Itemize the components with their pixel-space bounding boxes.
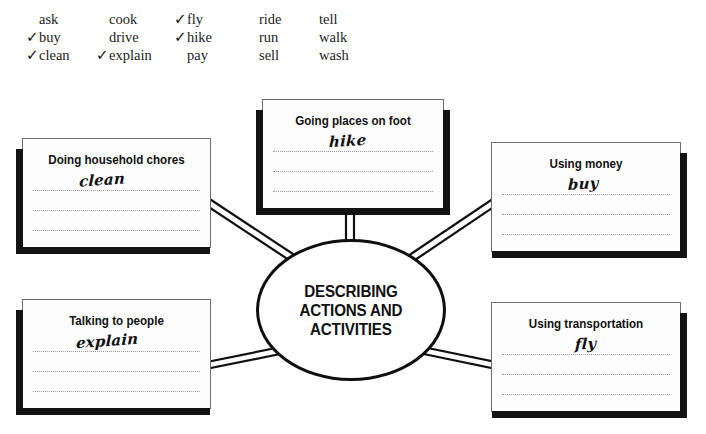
writing-line[interactable] [273, 191, 433, 192]
writing-line[interactable] [33, 230, 200, 231]
writing-line[interactable] [502, 354, 670, 355]
center-line-1: DESCRIBING [300, 282, 403, 301]
card-title: Going places on foot [269, 114, 436, 128]
card-top-right: Using money buy [491, 142, 681, 252]
writing-line[interactable] [33, 351, 200, 352]
writing-line[interactable] [502, 194, 670, 195]
center-line-3: ACTIVITIES [300, 320, 403, 339]
writing-lines [263, 151, 443, 192]
card-title: Talking to people [30, 314, 204, 328]
writing-lines [492, 194, 680, 235]
center-line-2: ACTIONS AND [300, 301, 403, 320]
card-shadow [256, 208, 450, 215]
writing-line[interactable] [33, 210, 200, 211]
card-shadow [16, 149, 23, 254]
card-top: Going places on foot hike [262, 99, 444, 209]
card-answer: fly [575, 334, 597, 354]
card-bottom-right: Using transportation fly [491, 302, 681, 412]
writing-lines [23, 351, 210, 392]
writing-lines [23, 190, 210, 231]
card-title: Doing household chores [30, 153, 204, 167]
card-top-left: Doing household chores clean [22, 138, 211, 248]
writing-line[interactable] [502, 234, 670, 235]
card-answer: buy [568, 174, 599, 194]
card-answer: clean [79, 169, 126, 190]
writing-lines [492, 354, 680, 395]
center-ellipse: DESCRIBING ACTIONS AND ACTIVITIES [256, 239, 446, 381]
card-shadow [492, 251, 687, 258]
writing-line[interactable] [33, 371, 200, 372]
card-shadow [492, 411, 687, 418]
card-shadow [16, 310, 23, 415]
writing-line[interactable] [273, 171, 433, 172]
card-title: Using money [499, 157, 674, 171]
card-shadow [680, 153, 687, 258]
writing-line[interactable] [33, 391, 200, 392]
card-bottom-left: Talking to people explain [22, 299, 211, 409]
center-ellipse-label: DESCRIBING ACTIONS AND ACTIVITIES [300, 282, 403, 339]
card-title: Using transportation [499, 317, 674, 331]
worksheet-canvas: ✓ ask ✓ buy ✓ clean ✓ cook ✓ drive ✓ [0, 0, 706, 434]
writing-line[interactable] [33, 190, 200, 191]
card-answer: explain [76, 330, 139, 352]
card-shadow [16, 247, 210, 254]
writing-line[interactable] [273, 151, 433, 152]
card-shadow [443, 110, 450, 215]
card-answer: hike [329, 131, 367, 152]
card-shadow [680, 313, 687, 418]
writing-line[interactable] [502, 214, 670, 215]
writing-line[interactable] [502, 394, 670, 395]
card-shadow [256, 110, 263, 215]
card-shadow [16, 408, 210, 415]
writing-line[interactable] [502, 374, 670, 375]
